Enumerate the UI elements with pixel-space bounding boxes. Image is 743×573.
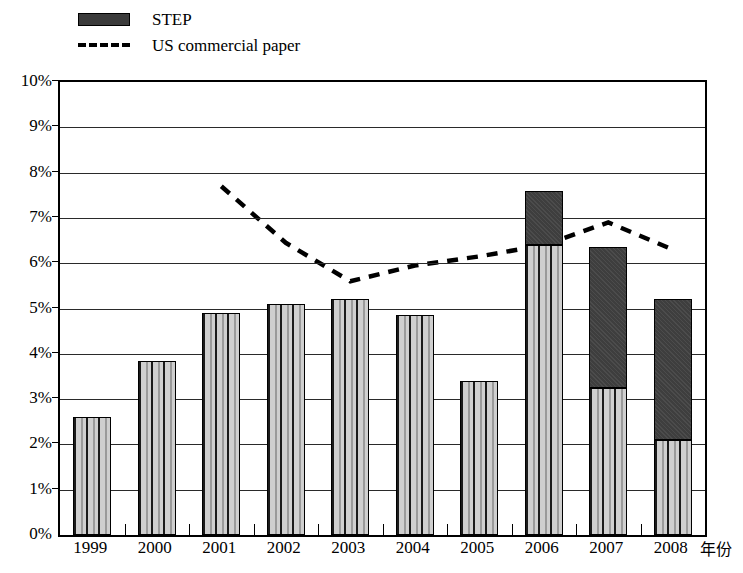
y-tick-label-10pct: 10% [4,72,52,89]
legend-label-us-commercial-paper: US commercial paper [152,37,300,54]
x-tick-mark [512,524,513,535]
x-tick-label-2008: 2008 [636,538,706,558]
bar-segment-step-2007 [589,247,627,387]
y-tick-label-6pct: 6% [4,253,52,270]
bar-segment-base-2007 [589,388,627,535]
x-tick-label-1999: 1999 [55,538,125,558]
legend-item-us-commercial-paper: US commercial paper [78,32,300,58]
bar-group-2006 [525,82,563,535]
bar-group-2002 [267,82,305,535]
bar-segment-base-2006 [525,245,563,535]
bar-group-2005 [460,82,498,535]
bar-group-1999 [73,82,111,535]
bar-segment-base-2005 [460,381,498,535]
chart-legend: STEP US commercial paper [78,4,498,60]
x-tick-label-2000: 2000 [120,538,190,558]
bar-group-2004 [396,82,434,535]
bar-segment-base-2003 [331,299,369,535]
y-tick-label-2pct: 2% [4,434,52,451]
x-tick-mark [125,524,126,535]
bar-segment-step-2006 [525,191,563,245]
x-tick-mark [641,524,642,535]
bar-group-2003 [331,82,369,535]
x-tick-mark [447,524,448,535]
x-tick-mark [254,524,255,535]
x-axis-title: 年份 [700,540,732,560]
legend-swatch-bar-icon [78,13,130,26]
bar-group-2001 [202,82,240,535]
bar-segment-base-2001 [202,313,240,535]
x-tick-label-2005: 2005 [442,538,512,558]
bar-segment-base-1999 [73,417,111,535]
x-tick-label-2004: 2004 [378,538,448,558]
bar-group-2000 [138,82,176,535]
x-tick-label-2002: 2002 [249,538,319,558]
x-tick-mark [189,524,190,535]
y-tick-label-0pct: 0% [4,525,52,542]
legend-label-step: STEP [152,11,192,28]
x-axis: 1999200020012002200320042005200620072008 [58,538,703,568]
bar-line-chart: STEP US commercial paper 0%1%2%3%4%5%6%7… [0,0,743,573]
legend-item-step: STEP [78,6,192,32]
bar-segment-base-2002 [267,304,305,535]
bar-group-2008 [654,82,692,535]
x-tick-label-2007: 2007 [571,538,641,558]
y-tick-label-7pct: 7% [4,208,52,225]
bar-group-2007 [589,82,627,535]
plot-inner [60,82,705,535]
x-tick-label-2001: 2001 [184,538,254,558]
bar-segment-base-2000 [138,361,176,535]
legend-swatch-dashed-line-icon [78,43,130,47]
x-tick-mark [576,524,577,535]
bar-segment-step-2008 [654,299,692,439]
bar-segment-base-2004 [396,315,434,535]
y-tick-label-1pct: 1% [4,480,52,497]
y-tick-label-9pct: 9% [4,117,52,134]
x-tick-mark [318,524,319,535]
x-tick-label-2006: 2006 [507,538,577,558]
y-tick-label-3pct: 3% [4,389,52,406]
plot-area [58,80,707,537]
y-tick-label-5pct: 5% [4,299,52,316]
x-tick-mark [383,524,384,535]
y-tick-label-8pct: 8% [4,163,52,180]
bar-segment-base-2008 [654,440,692,535]
y-tick-label-4pct: 4% [4,344,52,361]
y-axis: 0%1%2%3%4%5%6%7%8%9%10% [0,80,52,533]
x-tick-label-2003: 2003 [313,538,383,558]
